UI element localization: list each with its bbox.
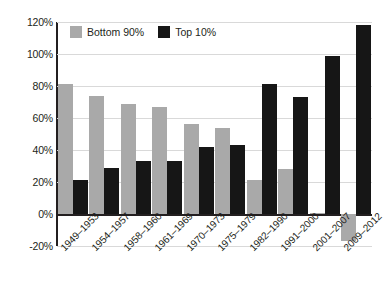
- y-axis-tick-label: 40%: [7, 145, 53, 156]
- legend-swatch-bottom-90: [70, 26, 82, 38]
- bar-series-container: [57, 22, 372, 246]
- legend-item-label: Top 10%: [175, 27, 216, 38]
- bar-bottom-90[interactable]: [58, 84, 73, 214]
- bar-bottom-90[interactable]: [152, 107, 167, 214]
- y-axis-tick-label: 80%: [7, 81, 53, 92]
- y-axis-tick-label: 20%: [7, 177, 53, 188]
- bar-bottom-90[interactable]: [121, 104, 136, 214]
- y-axis-tick-labels: 120%100%80%60%40%20%0%-20%: [0, 0, 53, 294]
- bar-top-10[interactable]: [262, 84, 277, 214]
- bar-bottom-90[interactable]: [215, 128, 230, 214]
- bar-top-10[interactable]: [73, 180, 88, 214]
- bar-top-10[interactable]: [167, 161, 182, 214]
- legend-swatch-top-10: [158, 26, 170, 38]
- bar-top-10[interactable]: [199, 147, 214, 214]
- y-axis-tick-label: 0%: [7, 209, 53, 220]
- bar-bottom-90[interactable]: [278, 169, 293, 214]
- y-axis-tick-label: -20%: [7, 241, 53, 252]
- bar-top-10[interactable]: [104, 168, 119, 214]
- bar-top-10[interactable]: [136, 161, 151, 214]
- bar-bottom-90[interactable]: [184, 124, 199, 214]
- bar-top-10[interactable]: [356, 25, 371, 214]
- bar-group: [57, 22, 89, 246]
- bar-bottom-90[interactable]: [89, 96, 104, 214]
- y-axis-tick-label: 60%: [7, 113, 53, 124]
- bar-top-10[interactable]: [230, 145, 245, 214]
- y-axis-tick-label: 100%: [7, 49, 53, 60]
- chart-legend: Bottom 90%Top 10%: [70, 26, 216, 38]
- bar-bottom-90[interactable]: [247, 180, 262, 214]
- legend-item[interactable]: Top 10%: [158, 26, 216, 38]
- x-axis-tick-labels: 1949–19531954–19571958–19601961–19691970…: [57, 246, 381, 294]
- plot-area: [57, 22, 372, 246]
- legend-item-label: Bottom 90%: [87, 27, 144, 38]
- bar-top-10[interactable]: [293, 97, 308, 214]
- bar-top-10[interactable]: [325, 56, 340, 214]
- y-axis-tick-label: 120%: [7, 17, 53, 28]
- legend-item[interactable]: Bottom 90%: [70, 26, 144, 38]
